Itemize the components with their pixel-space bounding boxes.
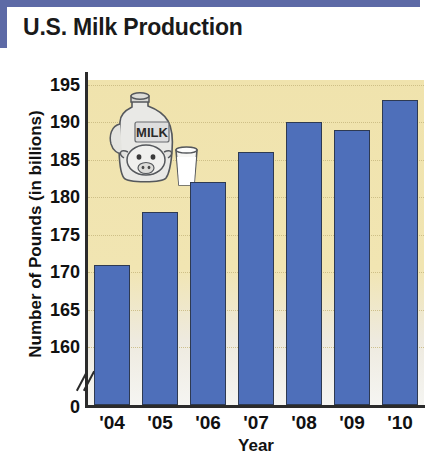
chart-container: Number of Pounds (in billions) MILK [0, 48, 428, 456]
x-axis-title: Year [88, 436, 424, 456]
y-tick-label: 185 [2, 149, 80, 170]
svg-text:MILK: MILK [136, 125, 168, 140]
x-tick-label: '06 [184, 412, 232, 434]
milk-jug-and-glass-icon: MILK [98, 88, 203, 193]
x-tick-label: '05 [136, 412, 184, 434]
bar-07 [238, 152, 274, 405]
bar-08 [286, 122, 322, 405]
x-tick-label: '10 [376, 412, 424, 434]
page-title: U.S. Milk Production [23, 14, 243, 41]
y-tick-label: 195 [2, 75, 80, 96]
bar-04 [94, 265, 130, 405]
x-tick-label: '04 [88, 412, 136, 434]
bar-06 [190, 182, 226, 405]
y-tick-label: 175 [2, 224, 80, 245]
y-tick-label: 180 [2, 187, 80, 208]
y-axis-ticks: 0160165170175180185190195 [0, 48, 80, 456]
y-tick-label: 160 [2, 337, 80, 358]
bar-10 [382, 100, 418, 405]
banner-corner-cap [420, 0, 428, 7]
gridline [88, 85, 424, 86]
title-banner: U.S. Milk Production [0, 0, 428, 48]
x-tick-label: '09 [328, 412, 376, 434]
bar-09 [334, 130, 370, 405]
y-tick-label: 170 [2, 262, 80, 283]
x-axis-line [85, 405, 425, 408]
x-tick-label: '07 [232, 412, 280, 434]
bar-05 [142, 212, 178, 405]
y-tick-label: 0 [2, 397, 80, 418]
y-tick-label: 190 [2, 112, 80, 133]
x-tick-label: '08 [280, 412, 328, 434]
y-axis-line [85, 72, 88, 405]
y-tick-label: 165 [2, 299, 80, 320]
